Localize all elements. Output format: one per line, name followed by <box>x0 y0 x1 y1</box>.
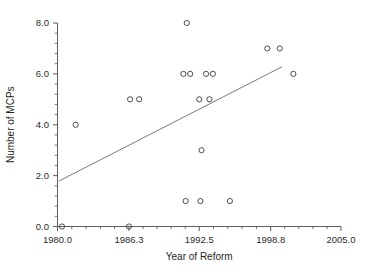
axes-group <box>53 23 341 231</box>
y-axis-tick-label: 4.0 <box>36 119 49 130</box>
y-axis-tick-label: 2.0 <box>36 170 49 181</box>
data-point <box>199 148 204 153</box>
data-point <box>291 71 296 76</box>
data-point <box>188 71 193 76</box>
x-axis-tick-label: 2005.0 <box>326 234 355 245</box>
data-point <box>181 71 186 76</box>
y-axis-title: Number of MCPs <box>5 86 16 163</box>
data-point <box>210 71 215 76</box>
x-axis-tick-label: 1998.8 <box>256 234 285 245</box>
data-point <box>137 97 142 102</box>
data-point <box>197 97 202 102</box>
plot-canvas: 1980.01986.31992.51998.82005.00.02.04.06… <box>0 0 367 272</box>
x-axis-tick-label: 1992.5 <box>185 234 214 245</box>
regression-trendline <box>59 67 282 181</box>
scatter-plot-figure: 1980.01986.31992.51998.82005.00.02.04.06… <box>0 0 367 272</box>
y-axis-tick-label: 6.0 <box>36 68 49 79</box>
data-point <box>73 122 78 127</box>
data-point <box>277 46 282 51</box>
data-point <box>127 97 132 102</box>
data-point <box>227 198 232 203</box>
data-point <box>183 198 188 203</box>
y-axis-tick-label: 8.0 <box>36 17 49 28</box>
data-point <box>184 20 189 25</box>
data-points-group <box>59 20 296 229</box>
data-point <box>207 97 212 102</box>
data-point <box>265 46 270 51</box>
trendline-group <box>59 67 282 181</box>
x-axis-tick-label: 1986.3 <box>114 234 143 245</box>
x-axis-title: Year of Reform <box>166 251 233 262</box>
data-point <box>203 71 208 76</box>
y-axis-tick-label: 0.0 <box>36 221 49 232</box>
data-point <box>198 198 203 203</box>
x-axis-tick-label: 1980.0 <box>43 234 72 245</box>
